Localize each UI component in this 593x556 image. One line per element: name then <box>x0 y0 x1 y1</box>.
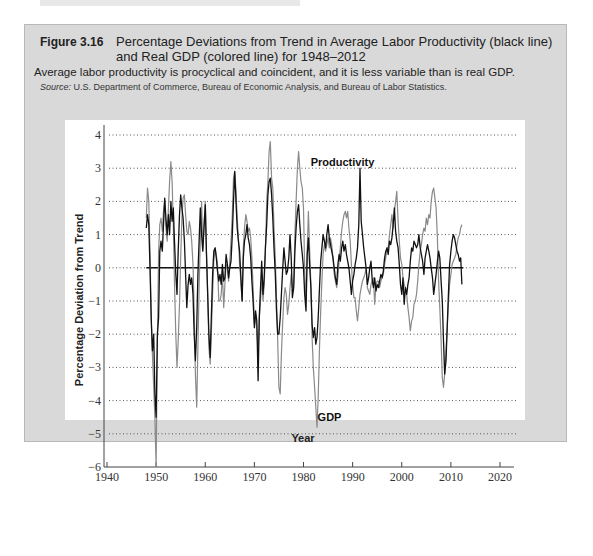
x-tick-label: 1970 <box>242 470 266 484</box>
series-label-gdp: GDP <box>318 411 342 423</box>
y-tick-label: −3 <box>88 360 101 374</box>
y-tick-label: −5 <box>88 427 101 441</box>
x-tick-label: 2020 <box>488 470 512 484</box>
y-tick-label: 3 <box>95 161 101 175</box>
x-tick-label: 2010 <box>439 470 463 484</box>
y-tick-label: 1 <box>95 228 101 242</box>
line-chart: 43210−1−2−3−4−5−619401950196019701980199… <box>0 0 593 556</box>
y-tick-label: 4 <box>95 128 101 142</box>
y-tick-label: −2 <box>88 327 101 341</box>
gridlines <box>109 135 518 434</box>
y-tick-label: 2 <box>95 194 101 208</box>
x-axis-title: Year <box>291 432 315 444</box>
x-tick-label: 1950 <box>144 470 168 484</box>
x-tick-label: 1960 <box>193 470 217 484</box>
x-tick-label: 1990 <box>341 470 365 484</box>
y-tick-label: 0 <box>95 261 101 275</box>
series-label-productivity: Productivity <box>311 156 375 168</box>
y-tick-label: −4 <box>88 394 101 408</box>
y-tick-label: −1 <box>88 294 101 308</box>
x-tick-label: 1980 <box>292 470 316 484</box>
x-tick-label: 1940 <box>95 470 119 484</box>
series-lines <box>146 142 463 467</box>
x-tick-label: 2000 <box>390 470 414 484</box>
annotations: ProductivityGDP <box>311 156 375 424</box>
axes <box>104 125 514 467</box>
y-axis-title: Percentage Deviation from Trend <box>73 214 85 386</box>
